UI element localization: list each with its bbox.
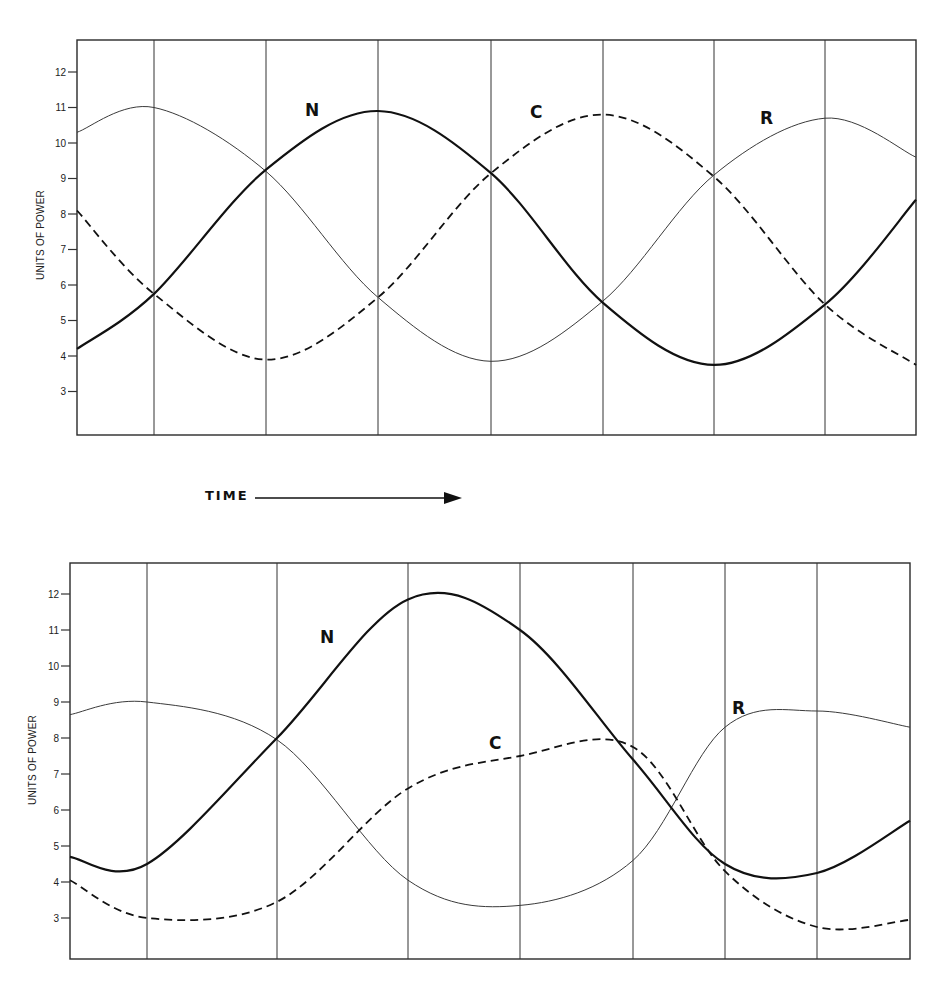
y-tick-label: 8: [53, 733, 59, 744]
series-line-C: [70, 739, 910, 929]
y-tick-label: 6: [60, 280, 66, 291]
y-tick-label: 8: [60, 209, 66, 220]
y-tick-label: 9: [60, 173, 66, 184]
y-tick-label: 11: [56, 102, 67, 113]
bottom-chart: 3456789101112UNITS OF POWERNCR: [27, 563, 910, 959]
curve-label-N: N: [305, 100, 319, 120]
time-arrow: TIME: [205, 488, 462, 504]
y-tick-label: 7: [60, 244, 66, 255]
y-tick-label: 10: [55, 138, 67, 149]
y-tick-label: 3: [53, 913, 59, 924]
y-tick-label: 11: [49, 625, 60, 636]
y-tick-label: 12: [55, 67, 67, 78]
arrow-right-icon: [444, 492, 462, 504]
curve-label-C: C: [530, 102, 542, 122]
y-tick-label: 12: [48, 589, 60, 600]
y-tick-label: 10: [48, 661, 60, 672]
plot-frame: [70, 563, 910, 959]
y-tick-label: 5: [53, 841, 59, 852]
series-line-N: [77, 111, 916, 365]
figure: 3456789101112UNITS OF POWERNCR TIME 3456…: [0, 0, 935, 988]
y-tick-label: 7: [53, 769, 59, 780]
curve-label-C: C: [489, 733, 501, 753]
y-tick-label: 4: [53, 877, 59, 888]
top-chart: 3456789101112UNITS OF POWERNCR: [35, 40, 916, 435]
curve-label-R: R: [732, 698, 745, 718]
y-tick-label: 9: [53, 697, 59, 708]
y-axis-label: UNITS OF POWER: [27, 715, 38, 805]
y-tick-label: 6: [53, 805, 59, 816]
y-tick-label: 4: [60, 351, 66, 362]
time-label: TIME: [205, 488, 249, 503]
y-tick-label: 3: [60, 386, 66, 397]
curve-label-R: R: [760, 108, 773, 128]
y-axis-label: UNITS OF POWER: [35, 190, 46, 280]
y-tick-label: 5: [60, 315, 66, 326]
series-line-R: [77, 107, 916, 362]
curve-label-N: N: [320, 627, 334, 647]
